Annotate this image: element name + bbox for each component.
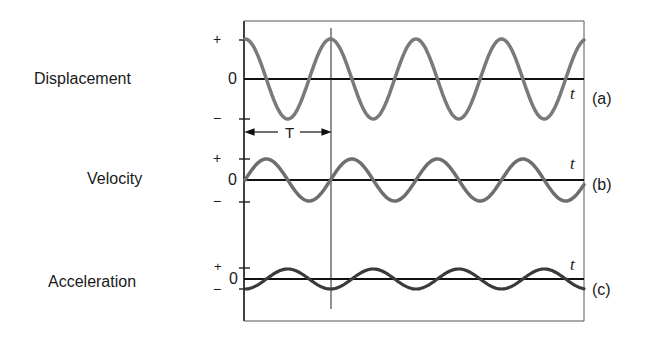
period-arrow [246, 129, 330, 135]
oscillation-diagram [0, 0, 648, 341]
